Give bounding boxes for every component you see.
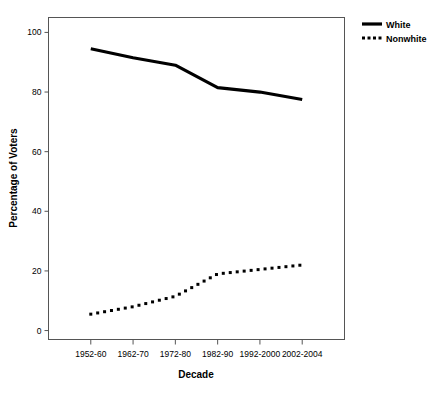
data-point [222,272,225,275]
chart-background [0,0,446,397]
data-point [196,283,199,286]
data-point [203,280,206,283]
data-point [89,313,92,316]
legend-label: Nonwhite [386,34,427,44]
legend-swatch-dotted [373,37,376,40]
y-axis-tick-label: 0 [37,326,42,336]
data-point [257,268,260,271]
data-point [215,273,218,276]
y-axis-tick-label: 40 [32,206,42,216]
data-point [243,270,246,273]
y-axis-title: Percentage of Voters [8,128,19,228]
x-axis-title: Decade [178,369,214,380]
data-point [298,264,301,267]
y-axis-tick-label: 80 [32,87,42,97]
data-point [96,311,99,314]
y-axis-tick-label: 100 [27,27,41,37]
data-point [151,300,154,303]
data-point [110,309,113,312]
data-point [264,267,267,270]
data-point [236,270,239,273]
data-point [124,307,127,310]
data-point [209,276,212,279]
data-point [165,297,168,300]
y-axis-tick-label: 20 [32,266,42,276]
x-axis-tick-label: 1982-90 [202,349,233,359]
data-point [284,265,287,268]
legend-swatch-dotted [379,37,382,40]
data-point [144,302,147,305]
x-axis-tick-label: 1972-80 [160,349,191,359]
data-point [103,310,106,313]
data-point [137,304,140,307]
x-axis-tick-label: 1952-60 [75,349,106,359]
legend-swatch-dotted [362,37,365,40]
data-point [178,293,181,296]
data-point [229,271,232,274]
x-axis-tick-label: 1962-70 [117,349,148,359]
data-point [184,289,187,292]
x-axis-tick-label: 2002-2004 [282,349,323,359]
legend-swatch-dotted [368,37,371,40]
legend-label: White [386,20,411,30]
data-point [171,295,174,298]
data-point [250,269,253,272]
y-axis-tick-label: 60 [32,147,42,157]
data-point [271,267,274,270]
line-chart: 020406080100 1952-601962-701972-801982-9… [0,0,446,397]
data-point [158,299,161,302]
chart-figure: 020406080100 1952-601962-701972-801982-9… [0,0,446,397]
data-point [291,264,294,267]
data-point [117,308,120,311]
x-axis-tick-label: 1992-2000 [240,349,281,359]
data-point [277,266,280,269]
data-point [131,305,134,308]
data-point [190,286,193,289]
